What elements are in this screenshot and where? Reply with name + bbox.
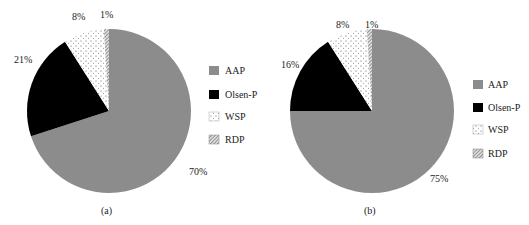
label-b-aap: 75% bbox=[430, 173, 448, 184]
svg-text:Olsen-P: Olsen-P bbox=[488, 102, 521, 113]
label-b-wsp: 8% bbox=[336, 19, 349, 30]
swatch-aap bbox=[209, 66, 219, 75]
legend-a: AAP Olsen-P WSP RDP bbox=[209, 65, 258, 145]
svg-text:RDP: RDP bbox=[225, 134, 245, 145]
svg-text:AAP: AAP bbox=[225, 65, 245, 76]
svg-text:Olsen-P: Olsen-P bbox=[225, 89, 258, 100]
pie-chart-b bbox=[290, 29, 454, 193]
label-a-rdp: 1% bbox=[100, 9, 113, 20]
swatch-wsp bbox=[209, 112, 219, 121]
label-a-olsen: 21% bbox=[14, 54, 32, 65]
svg-text:WSP: WSP bbox=[225, 111, 246, 122]
caption-b: (b) bbox=[364, 205, 376, 217]
label-b-olsen: 16% bbox=[281, 59, 299, 70]
svg-text:RDP: RDP bbox=[488, 148, 508, 159]
svg-text:AAP: AAP bbox=[488, 79, 508, 90]
pie-chart-a bbox=[27, 29, 191, 193]
legend-b: AAP Olsen-P WSP RDP bbox=[473, 79, 521, 159]
label-a-aap: 70% bbox=[189, 166, 207, 177]
swatch-rdp bbox=[209, 135, 219, 144]
swatch-olsen bbox=[209, 90, 219, 99]
figure: 70% 21% 8% 1% (a) AAP Olsen-P WSP RDP 75… bbox=[0, 0, 529, 225]
caption-a: (a) bbox=[101, 205, 112, 217]
svg-text:WSP: WSP bbox=[488, 124, 509, 135]
label-b-rdp: 1% bbox=[365, 19, 378, 30]
label-a-wsp: 8% bbox=[72, 11, 85, 22]
